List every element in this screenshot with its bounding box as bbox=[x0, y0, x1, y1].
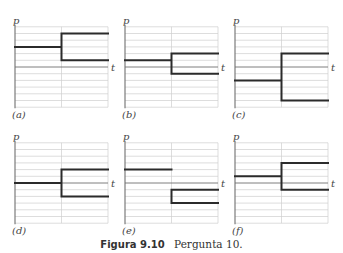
panel-a: pt(a) bbox=[12, 15, 116, 120]
panel-label: (c) bbox=[232, 109, 246, 120]
figure-caption: Figura 9.10 Pergunta 10. bbox=[0, 238, 343, 250]
t-axis-label: t bbox=[111, 62, 116, 73]
panel-f: pt(f) bbox=[232, 131, 336, 236]
p-axis-label: p bbox=[123, 15, 130, 26]
p-axis-label: p bbox=[233, 15, 240, 26]
t-axis-label: t bbox=[331, 62, 336, 73]
p-axis-label: p bbox=[13, 15, 20, 26]
figure-caption-text: Pergunta 10. bbox=[174, 238, 243, 250]
p-axis-label: p bbox=[123, 131, 130, 142]
t-axis-label: t bbox=[221, 62, 226, 73]
t-axis-label: t bbox=[221, 178, 226, 189]
figure-panels: pt(a)pt(b)pt(c)pt(d)pt(e)pt(f) bbox=[0, 0, 343, 253]
panel-c: pt(c) bbox=[232, 15, 336, 120]
panel-label: (a) bbox=[12, 109, 26, 120]
figure-number: Figura 9.10 bbox=[100, 239, 164, 250]
p-axis-label: p bbox=[233, 131, 240, 142]
t-axis-label: t bbox=[111, 178, 116, 189]
panel-e: pt(e) bbox=[122, 131, 226, 236]
panel-label: (d) bbox=[12, 225, 26, 236]
momentum-line bbox=[125, 54, 218, 74]
panel-label: (b) bbox=[122, 109, 136, 120]
p-axis-label: p bbox=[13, 131, 20, 142]
panel-label: (f) bbox=[232, 225, 244, 236]
panel-d: pt(d) bbox=[12, 131, 116, 236]
t-axis-label: t bbox=[331, 178, 336, 189]
panel-label: (e) bbox=[122, 225, 136, 236]
panel-b: pt(b) bbox=[122, 15, 226, 120]
